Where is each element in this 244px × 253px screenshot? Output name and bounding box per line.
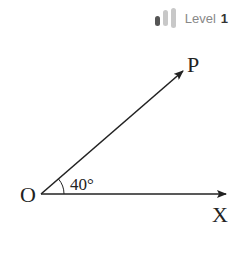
angle-diagram: 40° O X P	[0, 0, 244, 253]
angle-arc	[59, 179, 65, 194]
ray-op	[41, 71, 183, 194]
point-label-x: X	[212, 202, 228, 227]
angle-label: 40°	[70, 175, 94, 194]
vertex-label-o: O	[20, 182, 36, 207]
point-label-p: P	[187, 52, 199, 77]
